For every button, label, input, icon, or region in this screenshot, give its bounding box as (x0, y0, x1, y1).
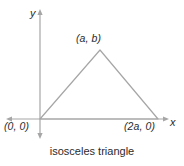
triangle-shape (40, 50, 158, 119)
x-axis-label: x (170, 117, 176, 128)
y-axis-bottom-arrow-icon (37, 133, 42, 139)
vertex-label-origin: (0, 0) (4, 121, 29, 132)
figure-caption: isosceles triangle (0, 145, 184, 157)
vertex-label-apex: (a, b) (76, 33, 101, 44)
x-axis-right-arrow-icon (163, 116, 169, 121)
y-axis-label: y (30, 8, 36, 19)
coordinate-plane-diagram (0, 0, 184, 166)
vertex-label-base-right: (2a, 0) (124, 121, 155, 132)
isosceles-triangle-figure: y x (a, b) (0, 0) (2a, 0) isosceles tria… (0, 0, 184, 166)
y-axis-top-arrow-icon (37, 9, 42, 15)
